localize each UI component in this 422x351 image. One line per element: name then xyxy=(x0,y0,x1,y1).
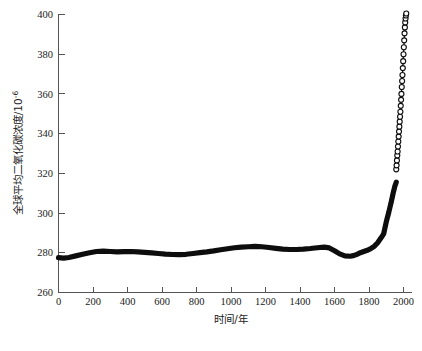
y-tick-label: 400 xyxy=(37,9,53,20)
data-point-marker xyxy=(399,84,404,89)
y-tick-label: 280 xyxy=(37,247,53,258)
data-point-marker xyxy=(401,45,406,50)
data-point-marker xyxy=(401,52,406,57)
x-tick-label: 1400 xyxy=(290,296,311,307)
data-point-marker xyxy=(402,31,407,36)
data-point-marker xyxy=(400,79,405,84)
x-tick-label: 1800 xyxy=(359,296,380,307)
svg-text:全球平均二氧化碳浓度/10-6: 全球平均二氧化碳浓度/10-6 xyxy=(11,91,24,216)
data-point-marker xyxy=(399,91,404,96)
y-tick-label: 260 xyxy=(37,287,53,298)
x-tick-label: 400 xyxy=(120,296,136,307)
data-point-marker xyxy=(396,139,401,144)
data-point-marker xyxy=(398,109,403,114)
data-point-marker xyxy=(395,144,400,149)
data-point-marker xyxy=(394,158,399,163)
y-axis-title-exponent: -6 xyxy=(11,91,20,99)
y-tick-label: 340 xyxy=(37,128,53,139)
data-point-marker xyxy=(399,97,404,102)
y-tick-label: 300 xyxy=(37,208,53,219)
data-point-marker xyxy=(401,59,406,64)
x-tick-label: 1200 xyxy=(255,296,276,307)
x-tick-label: 800 xyxy=(189,296,205,307)
y-tick-label: 360 xyxy=(37,89,53,100)
data-point-marker xyxy=(398,114,403,119)
x-tick-label: 1600 xyxy=(324,296,345,307)
y-axis-title: 全球平均二氧化碳浓度/10-6 xyxy=(11,91,24,216)
x-axis-title: 时间/年 xyxy=(214,313,248,325)
data-point-marker xyxy=(397,124,402,129)
data-point-marker xyxy=(396,134,401,139)
data-point-marker xyxy=(404,11,409,16)
y-axis-title-text: 全球平均二氧化碳浓度/10 xyxy=(12,98,24,215)
co2-concentration-line-chart: 400 380 360 340 320 300 280 260 0 200 xyxy=(0,0,422,351)
x-tick-label: 1000 xyxy=(221,296,242,307)
data-point-marker xyxy=(397,129,402,134)
data-point-marker xyxy=(394,163,399,168)
data-point-marker xyxy=(402,25,407,30)
data-point-marker xyxy=(395,149,400,154)
data-point-marker xyxy=(397,119,402,124)
y-tick-label: 320 xyxy=(37,168,53,179)
data-point-marker xyxy=(398,103,403,108)
x-tick-label: 600 xyxy=(154,296,170,307)
y-tick-label: 380 xyxy=(37,49,53,60)
chart-figure: 400 380 360 340 320 300 280 260 0 200 xyxy=(0,0,422,351)
x-tick-label: 0 xyxy=(56,296,61,307)
data-point-marker xyxy=(400,73,405,78)
x-tick-label: 200 xyxy=(85,296,101,307)
data-point-marker xyxy=(402,38,407,43)
x-tick-label: 2000 xyxy=(393,296,414,307)
data-point-marker xyxy=(400,66,405,71)
